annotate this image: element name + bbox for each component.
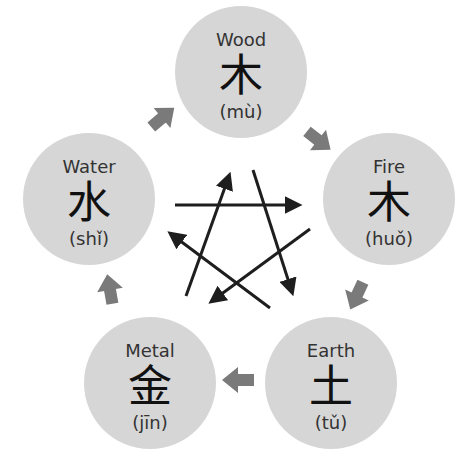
element-pinyin: (jīn) xyxy=(84,413,216,433)
element-water: Water 水 (shǐ) xyxy=(23,133,155,265)
element-pinyin: (huǒ) xyxy=(323,229,455,249)
element-pinyin: (tǔ) xyxy=(265,413,397,433)
element-name: Metal xyxy=(84,341,216,361)
arrow-earth-to-metal xyxy=(222,367,254,393)
element-character: 水 xyxy=(23,179,155,227)
element-name: Fire xyxy=(323,157,455,177)
element-character: 金 xyxy=(84,363,216,411)
arrow-wood-to-earth xyxy=(253,170,292,292)
element-name: Earth xyxy=(265,341,397,361)
element-character: 木 xyxy=(175,52,307,100)
element-pinyin: (mù) xyxy=(175,102,307,122)
element-wood: Wood 木 (mù) xyxy=(175,6,307,138)
arrow-wood-to-fire xyxy=(299,121,339,160)
element-metal: Metal 金 (jīn) xyxy=(84,317,216,449)
controlling-arrows xyxy=(171,170,310,308)
arrow-fire-to-metal xyxy=(212,229,310,301)
arrow-metal-to-wood xyxy=(186,176,229,296)
element-character: 土 xyxy=(265,363,397,411)
arrow-metal-to-water xyxy=(94,272,125,306)
element-pinyin: (shǐ) xyxy=(23,229,155,249)
element-name: Wood xyxy=(175,30,307,50)
element-name: Water xyxy=(23,157,155,177)
element-fire: Fire 木 (huǒ) xyxy=(323,133,455,265)
element-earth: Earth 土 (tǔ) xyxy=(265,317,397,449)
element-character: 木 xyxy=(323,179,455,227)
arrow-fire-to-earth xyxy=(338,277,374,315)
